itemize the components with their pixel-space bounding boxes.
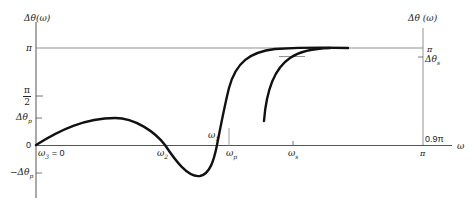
- right-axis-title: Δθ (ω): [408, 14, 437, 23]
- label-neg-delta-theta-p-text: −Δθ: [10, 167, 29, 177]
- label-delta-theta-p-text: Δθ: [16, 112, 28, 122]
- label-omega-p-sub: p: [233, 153, 237, 160]
- label-neg-delta-theta-p: −Δθp: [10, 168, 33, 179]
- phase-plot: [0, 0, 475, 208]
- right-label-delta-theta-s: Δθs: [425, 55, 440, 66]
- label-x-pi: π: [420, 150, 425, 158]
- label-omega3-eq: = 0: [49, 148, 64, 158]
- label-omega2: ω2: [157, 149, 168, 160]
- label-delta-theta-p: Δθp: [16, 113, 32, 124]
- stopband-phase-curve: [264, 48, 330, 121]
- passband-phase-curve: [36, 48, 348, 176]
- right-label-delta-theta-s-sub: s: [437, 59, 440, 66]
- label-omega-p: ωp: [226, 149, 237, 160]
- right-label-pi: π: [427, 46, 432, 54]
- right-label-delta-theta-s-text: Δθ: [425, 54, 437, 64]
- label-omega-s-sub: s: [295, 153, 298, 160]
- label-omega1: ω1: [208, 131, 219, 142]
- label-pi-half: π 2: [23, 86, 31, 107]
- label-pi-half-den: 2: [24, 97, 30, 107]
- left-axis-title: Δθ(ω): [24, 14, 50, 23]
- right-label-0-9pi: 0.9π: [425, 135, 444, 144]
- x-axis-label: ω: [457, 142, 464, 151]
- label-delta-theta-p-sub: p: [28, 117, 32, 124]
- label-pi-half-num: π: [24, 85, 30, 95]
- label-omega2-sub: 2: [164, 153, 168, 160]
- label-omega1-sub: 1: [215, 135, 219, 142]
- label-zero: 0: [26, 141, 31, 150]
- label-neg-delta-theta-p-sub: p: [29, 172, 33, 179]
- label-omega-s: ωs: [288, 149, 298, 160]
- label-pi: π: [26, 44, 32, 53]
- label-omega3: ω3 = 0: [38, 149, 64, 160]
